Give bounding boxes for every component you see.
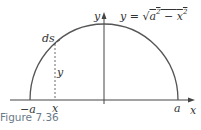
curve-equation: y = √a2 − x2 [120,11,187,22]
y-segment-label: y [57,67,63,78]
x-axis-arrow-icon [188,98,195,103]
eq-a-exp: 2 [156,8,160,16]
eq-x: x [177,10,183,23]
ds-label: ds [42,33,55,44]
eq-lhs: y = [120,10,142,23]
eq-x-exp: 2 [183,8,187,16]
eq-radicand: a2 − x2 [149,10,187,23]
y-axis-arrow-icon [102,12,107,19]
y-axis-label: y [94,11,100,22]
eq-minus: − [160,10,176,23]
x-axis-label: x [190,105,196,116]
a-label: a [174,103,181,114]
figure-caption: Figure 7.36 [0,111,59,123]
